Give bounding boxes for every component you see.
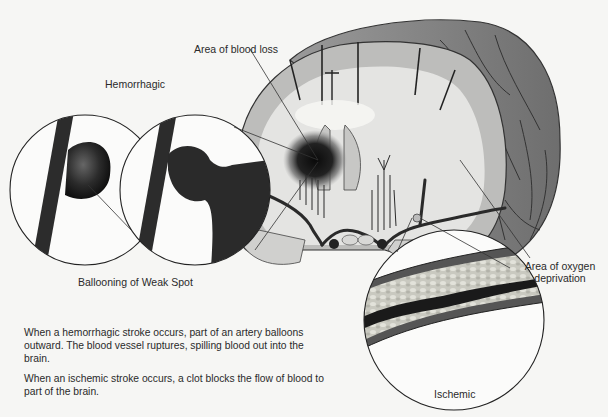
label-hemorrhagic: Hemorrhagic	[105, 78, 165, 90]
brain-illustration	[231, 20, 560, 264]
label-area-of-blood-loss: Area of blood loss	[194, 43, 278, 55]
label-ballooning-of-weak-spot: Ballooning of Weak Spot	[78, 276, 193, 288]
stroke-diagram: Area of blood loss Hemorrhagic Balloonin…	[0, 0, 608, 417]
ischemic-magnifier	[360, 230, 560, 410]
hemorrhagic-description: When a hemorrhagic stroke occurs, part o…	[24, 326, 324, 365]
label-oxygen-line2: deprivation	[520, 272, 600, 284]
label-ischemic: Ischemic	[434, 388, 475, 400]
label-area-of-oxygen-deprivation: Area of oxygen deprivation	[520, 260, 600, 284]
label-oxygen-line1: Area of oxygen	[520, 260, 600, 272]
ischemic-description: When an ischemic stroke occurs, a clot b…	[24, 372, 344, 398]
